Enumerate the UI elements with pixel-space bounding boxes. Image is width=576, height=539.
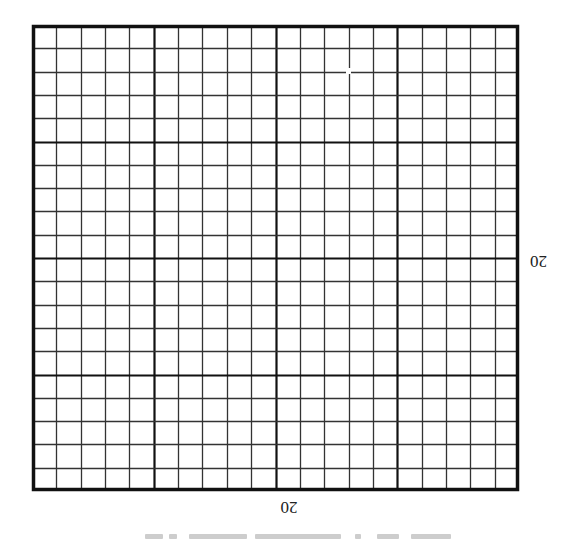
- cropped-caption: [145, 533, 455, 539]
- horizontal-dimension-label: 20: [0, 499, 576, 516]
- vertical-dimension-label: 20: [530, 253, 547, 270]
- vertical-dimension-value: 20: [530, 252, 547, 271]
- horizontal-dimension-value: 20: [281, 499, 298, 516]
- graph-paper-grid: [32, 25, 519, 491]
- scan-artifact: [346, 68, 351, 74]
- grid-lines: [32, 25, 519, 491]
